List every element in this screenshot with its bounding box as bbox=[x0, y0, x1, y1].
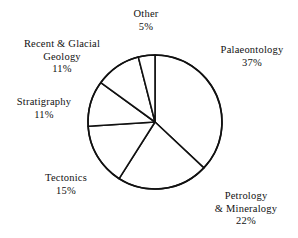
pie-label-stratigraphy-value: 11% bbox=[2, 109, 86, 122]
pie-label-tectonics: Tectonics 15% bbox=[26, 172, 106, 197]
pie-label-palaeontology-name: Palaeontology bbox=[208, 44, 296, 57]
pie-label-other: Other 5% bbox=[110, 8, 182, 33]
pie-label-tectonics-name: Tectonics bbox=[26, 172, 106, 185]
pie-label-petrology-value: 22% bbox=[196, 215, 296, 228]
pie-label-palaeontology-value: 37% bbox=[208, 57, 296, 70]
pie-label-other-name: Other bbox=[110, 8, 182, 21]
pie-label-petrology-name-line1: Petrology bbox=[196, 190, 296, 203]
pie-label-other-value: 5% bbox=[110, 21, 182, 34]
pie-label-petrology-name-line2: & Mineralogy bbox=[196, 203, 296, 216]
pie-label-recent-name-line2: Geology bbox=[18, 51, 106, 64]
pie-label-recent-name-line1: Recent & Glacial bbox=[18, 38, 106, 51]
pie-label-recent-value: 11% bbox=[18, 63, 106, 76]
pie-chart: Other 5% Palaeontology 37% Petrology & M… bbox=[0, 0, 298, 238]
pie-label-petrology-mineralogy: Petrology & Mineralogy 22% bbox=[196, 190, 296, 228]
pie-label-stratigraphy: Stratigraphy 11% bbox=[2, 96, 86, 121]
pie-label-stratigraphy-name: Stratigraphy bbox=[2, 96, 86, 109]
pie-label-tectonics-value: 15% bbox=[26, 185, 106, 198]
pie-label-recent-glacial-geology: Recent & Glacial Geology 11% bbox=[18, 38, 106, 76]
pie-label-palaeontology: Palaeontology 37% bbox=[208, 44, 296, 69]
